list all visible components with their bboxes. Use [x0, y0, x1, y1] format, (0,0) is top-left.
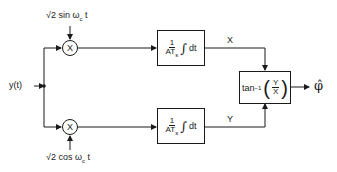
bottom-multiplier: X: [62, 119, 78, 135]
output-phi-hat: φ̂: [314, 78, 323, 93]
bottom-reference-label: √2 cos ωc t: [46, 153, 90, 164]
input-label: y(t): [9, 81, 22, 90]
top-multiplier: X: [62, 40, 78, 56]
integrator-gain: 1 ATs: [166, 117, 179, 136]
top-integrator-block: 1 ATs ∫ dt: [157, 30, 205, 66]
bottom-integrator-block: 1 ATs ∫ dt: [157, 108, 205, 144]
signal-y-label: Y: [227, 115, 233, 124]
integral-icon: ∫: [180, 119, 187, 134]
arctan-block: tan−1 ( Y X ): [239, 71, 291, 104]
integral-icon: ∫: [180, 41, 187, 56]
integrator-gain: 1 ATs: [166, 39, 179, 58]
ratio: Y X: [272, 79, 279, 97]
junction-dot: [42, 84, 46, 88]
top-reference-label: √2 sin ωc t: [46, 11, 88, 22]
signal-x-label: X: [227, 36, 233, 45]
